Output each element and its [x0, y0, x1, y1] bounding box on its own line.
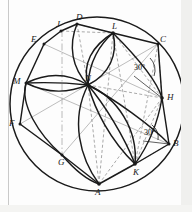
page-right-shade — [181, 0, 192, 212]
vertex-dot-B — [168, 143, 171, 146]
vertex-dot-L — [111, 31, 115, 35]
arc-M-G — [25, 83, 62, 155]
vertex-dot-K — [133, 162, 137, 166]
vertex-dot-J — [60, 30, 63, 33]
vertex-label-H: H — [167, 93, 174, 102]
lens-M-N — [26, 75, 88, 91]
vertex-dot-M — [25, 82, 28, 85]
vertex-dot-E — [43, 43, 46, 46]
vertex-label-A: A — [95, 188, 101, 197]
construction-lines — [20, 44, 169, 155]
vertex-dot-N — [86, 83, 90, 87]
vertex-dot-D — [76, 23, 79, 26]
vertex-label-D: D — [76, 13, 83, 22]
page-margin-rule — [8, 0, 9, 212]
vertex-label-C: C — [160, 35, 166, 44]
angle-label-lower-30: 30° — [144, 128, 155, 137]
vertex-dot-A — [97, 182, 101, 186]
figure-canvas — [0, 0, 192, 212]
angle-arc-upper-30 — [150, 58, 155, 76]
vertex-label-N: N — [85, 74, 91, 83]
arc-N-A — [79, 85, 99, 184]
vertex-label-F: F — [9, 119, 15, 128]
vertex-label-L: L — [112, 22, 117, 31]
angle-label-upper-30: 30° — [134, 63, 145, 72]
vertex-dot-F — [19, 123, 22, 126]
page-bottom-shade — [0, 205, 192, 212]
geometry-figure: D J E M F G A K B H C L N 30° 30° — [0, 0, 192, 212]
vertex-label-G: G — [58, 158, 65, 167]
arc-M-N-middle — [26, 83, 88, 85]
vertex-label-E: E — [31, 35, 37, 44]
vertex-label-J: J — [56, 20, 60, 29]
vertex-label-B: B — [173, 139, 179, 148]
vertex-label-K: K — [133, 168, 139, 177]
vertex-dot-H — [160, 96, 164, 100]
sweep-arcs — [25, 24, 169, 184]
vertex-label-M: M — [13, 77, 21, 86]
